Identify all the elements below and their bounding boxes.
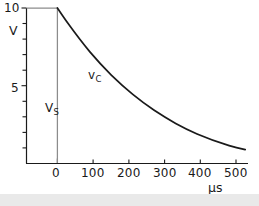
y-tick-label-5: 5 [11, 82, 19, 94]
x-tick-label-200: 200 [117, 167, 141, 179]
capacitor-voltage-label: vC [88, 69, 101, 81]
source-voltage-label-text: V [45, 101, 53, 115]
source-voltage-trace [27, 8, 58, 163]
capacitor-voltage-trace [57, 8, 245, 150]
scan-edge-strip [0, 194, 259, 206]
x-tick-label-300: 300 [153, 167, 177, 179]
x-axis-ticks [57, 159, 236, 164]
source-voltage-label-sub: S [54, 107, 59, 117]
capacitor-discharge-chart: 10 5 V 0 100 200 300 400 500 µs VS vC [0, 0, 259, 206]
x-tick-label-100: 100 [81, 167, 105, 179]
y-axis-unit-label: V [9, 25, 18, 38]
capacitor-voltage-label-sub: C [95, 74, 101, 84]
y-tick-label-10: 10 [4, 2, 20, 14]
x-tick-label-0: 0 [52, 167, 60, 179]
x-tick-label-400: 400 [188, 167, 212, 179]
y-axis-ticks [22, 8, 27, 148]
x-tick-label-500: 500 [224, 167, 248, 179]
x-axis-unit-label: µs [208, 182, 222, 195]
source-voltage-label: VS [45, 102, 59, 114]
